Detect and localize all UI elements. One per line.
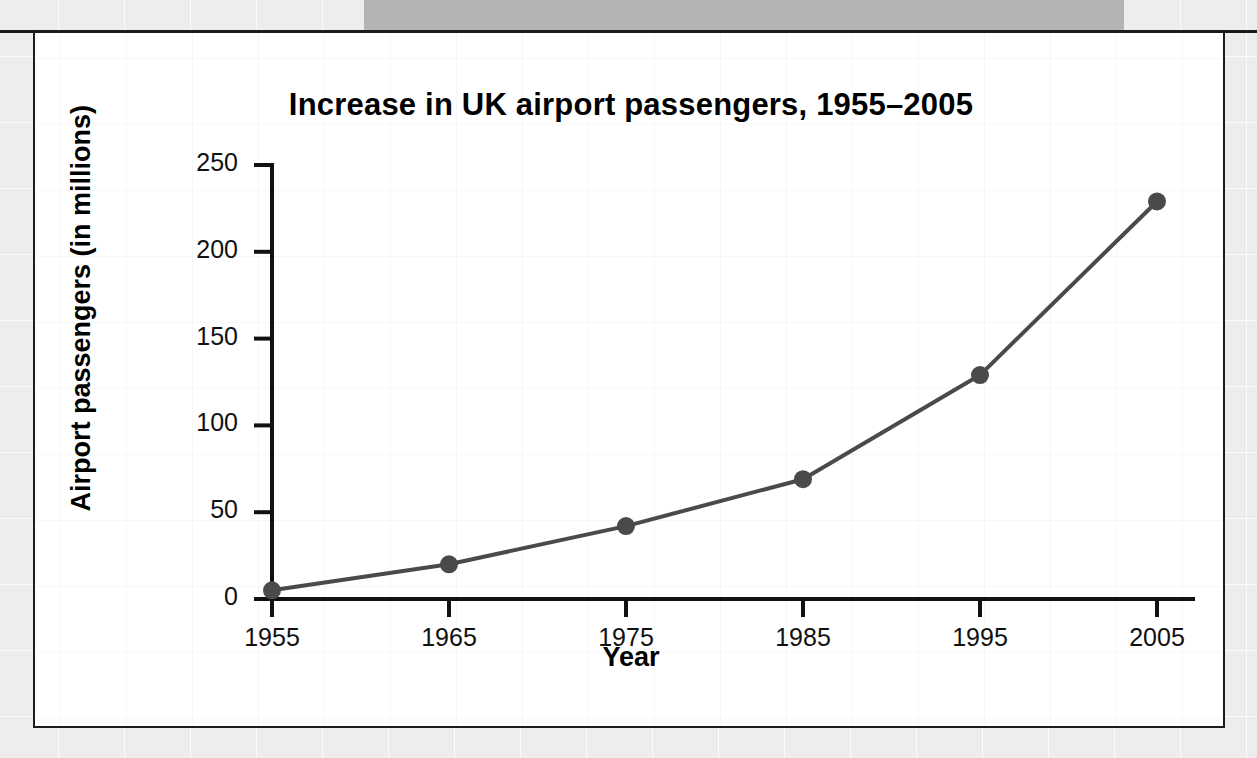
x-tick-label: 2005 [1087, 623, 1227, 652]
data-point-marker [971, 366, 989, 384]
data-point-marker [440, 555, 458, 573]
x-tick-label: 1995 [910, 623, 1050, 652]
x-tick-label: 1965 [379, 623, 519, 652]
data-point-marker [794, 470, 812, 488]
x-tick-label: 1975 [556, 623, 696, 652]
y-tick-label: 200 [142, 235, 238, 264]
axes [272, 163, 1195, 599]
x-tick-label: 1985 [733, 623, 873, 652]
data-line [272, 201, 1157, 590]
top-gray-band [364, 0, 1124, 30]
y-tick-label: 0 [142, 582, 238, 611]
y-tick-label: 50 [142, 495, 238, 524]
data-point-marker [1148, 192, 1166, 210]
data-markers [263, 192, 1166, 599]
data-point-marker [263, 581, 281, 599]
x-tick-label: 1955 [202, 623, 342, 652]
axis-ticks [254, 165, 1157, 617]
y-tick-label: 100 [142, 408, 238, 437]
y-tick-label: 150 [142, 322, 238, 351]
data-point-marker [617, 517, 635, 535]
chart-card: Increase in UK airport passengers, 1955–… [33, 31, 1225, 728]
y-tick-label: 250 [142, 148, 238, 177]
